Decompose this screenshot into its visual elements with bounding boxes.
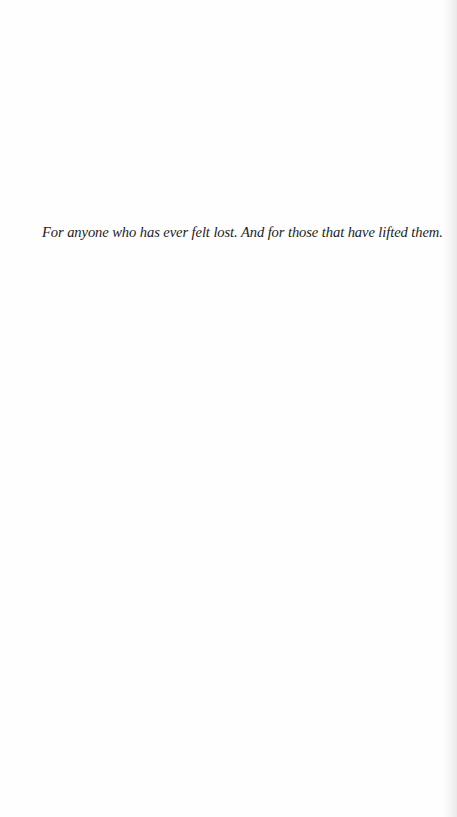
- book-page: For anyone who has ever felt lost. And f…: [0, 0, 457, 817]
- dedication-text: For anyone who has ever felt lost. And f…: [42, 223, 442, 241]
- page-edge-shadow: [443, 0, 457, 817]
